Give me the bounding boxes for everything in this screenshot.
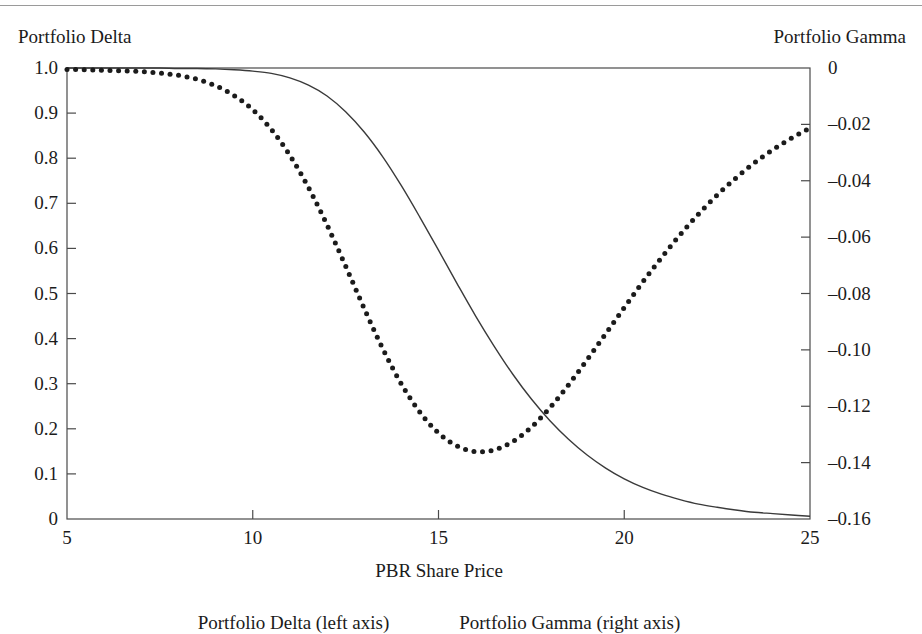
gamma-dot <box>555 396 560 401</box>
gamma-dot <box>159 71 164 76</box>
y-tick-label: 0.4 <box>4 329 58 348</box>
gamma-dot <box>412 402 417 407</box>
gamma-dot <box>314 202 319 207</box>
gamma-dot <box>350 280 355 285</box>
gamma-dot <box>720 187 725 192</box>
gamma-dot <box>133 69 138 74</box>
y-tick-label: 0.2 <box>4 419 58 438</box>
gamma-dot <box>318 209 323 214</box>
y2-tick-label: –0.16 <box>828 509 871 528</box>
gamma-dot <box>125 68 130 73</box>
y-tick-label: 0.9 <box>4 103 58 122</box>
portfolio-delta-line <box>67 68 810 516</box>
y2-tick-label: –0.08 <box>828 284 871 303</box>
gamma-dot <box>550 403 555 408</box>
gamma-dot <box>311 194 316 199</box>
gamma-dot <box>657 258 662 263</box>
gamma-dot <box>636 285 641 290</box>
gamma-dot <box>354 288 359 293</box>
gamma-dot <box>646 271 651 276</box>
gamma-dot <box>774 145 779 150</box>
gamma-dot <box>796 132 801 137</box>
gamma-dot <box>571 376 576 381</box>
gamma-dot <box>252 109 257 114</box>
x-tick-label: 15 <box>409 528 469 547</box>
gamma-dot <box>423 416 428 421</box>
gamma-dot <box>307 186 312 191</box>
gamma-dot <box>760 154 765 159</box>
gamma-dot <box>679 231 684 236</box>
gamma-dot <box>586 355 591 360</box>
gamma-dot <box>329 233 334 238</box>
gamma-dot <box>505 442 510 447</box>
gamma-dot <box>390 366 395 371</box>
gamma-dot <box>407 395 412 400</box>
axis-ticks <box>67 113 810 519</box>
right-axis-title: Portfolio Gamma <box>774 26 906 48</box>
gamma-dot <box>576 369 581 374</box>
gamma-dot <box>285 149 290 154</box>
gamma-dot <box>652 264 657 269</box>
gamma-dot <box>428 423 433 428</box>
y-tick-label: 0.5 <box>4 284 58 303</box>
gamma-dot <box>417 409 422 414</box>
gamma-dot <box>275 135 280 140</box>
gamma-dot <box>448 440 453 445</box>
gamma-dot <box>690 218 695 223</box>
plot-frame <box>67 68 810 519</box>
x-tick-label: 10 <box>223 528 283 547</box>
gamma-dot <box>596 341 601 346</box>
gamma-dot <box>532 422 537 427</box>
portfolio-gamma-dotted-line <box>65 67 809 454</box>
x-tick-label: 20 <box>594 528 654 547</box>
gamma-dot <box>107 68 112 73</box>
y2-tick-label: –0.14 <box>828 453 871 472</box>
gamma-dot <box>73 67 78 72</box>
gamma-dot <box>455 444 460 449</box>
gamma-dot <box>708 199 713 204</box>
gamma-dot <box>259 115 264 120</box>
y-tick-label: 0.1 <box>4 464 58 483</box>
page-top-rule <box>0 5 922 6</box>
gamma-dot <box>740 170 745 175</box>
gamma-dot <box>606 327 611 332</box>
gamma-dot <box>264 122 269 127</box>
gamma-dot <box>519 433 524 438</box>
gamma-dot <box>611 320 616 325</box>
gamma-dot <box>142 69 147 74</box>
gamma-dot <box>560 389 565 394</box>
gamma-dot <box>626 299 631 304</box>
left-axis-title: Portfolio Delta <box>18 26 131 48</box>
gamma-dot <box>662 251 667 256</box>
x-axis-title: PBR Share Price <box>0 560 878 582</box>
gamma-dot <box>591 348 596 353</box>
gamma-dot <box>767 150 772 155</box>
gamma-dot <box>463 447 468 452</box>
gamma-dot <box>375 335 380 340</box>
gamma-dot <box>566 383 571 388</box>
gamma-dot <box>357 296 362 301</box>
gamma-dot <box>239 98 244 103</box>
x-tick-label: 25 <box>780 528 840 547</box>
y2-tick-label: –0.04 <box>828 171 871 190</box>
gamma-dot <box>631 292 636 297</box>
gamma-dot <box>753 160 758 165</box>
gamma-dot <box>246 104 251 109</box>
gamma-dot <box>684 224 689 229</box>
y2-tick-label: –0.12 <box>828 396 871 415</box>
legend-entry: Portfolio Delta (left axis) <box>198 612 390 634</box>
gamma-dot <box>733 176 738 181</box>
gamma-dot <box>290 156 295 161</box>
gamma-dot <box>176 73 181 78</box>
gamma-dot <box>702 205 707 210</box>
gamma-dot <box>378 343 383 348</box>
gamma-dot <box>99 68 104 73</box>
gamma-dot <box>696 212 701 217</box>
gamma-dot <box>668 244 673 249</box>
gamma-dot <box>65 67 70 72</box>
gamma-dot <box>434 429 439 434</box>
gamma-dot <box>781 140 786 145</box>
gamma-dot <box>209 82 214 87</box>
gamma-dot <box>364 311 369 316</box>
